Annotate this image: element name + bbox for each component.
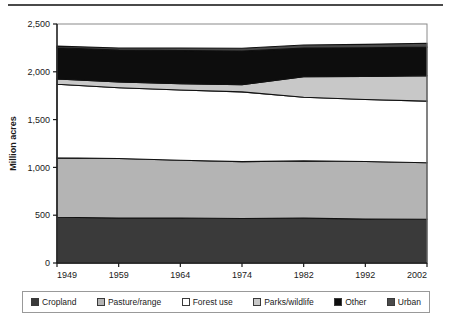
legend-item-pasture-range[interactable]: Pasture/range xyxy=(97,298,161,307)
x-tick-label: 2002 xyxy=(407,270,427,280)
legend-swatch-icon xyxy=(31,298,39,306)
x-axis-title: Year xyxy=(232,283,252,285)
header-divider xyxy=(8,4,443,6)
legend-item-label: Pasture/range xyxy=(108,298,161,307)
legend-item-other[interactable]: Other xyxy=(334,298,366,307)
plot-canvas: 05001,0001,5002,0002,500 194919591964197… xyxy=(0,10,451,285)
legend-swatch-icon xyxy=(253,298,261,306)
legend-item-label: Parks/wildlife xyxy=(264,298,314,307)
legend-item-forest-use[interactable]: Forest use xyxy=(182,298,233,307)
y-axis-title: Million acres xyxy=(8,116,18,171)
chart-legend: CroplandPasture/rangeForest useParks/wil… xyxy=(22,291,430,313)
area-band-cropland xyxy=(57,217,427,263)
legend-item-parks-wildlife[interactable]: Parks/wildlife xyxy=(253,298,314,307)
y-tick-label: 2,500 xyxy=(27,19,50,29)
area-band-pasture-range xyxy=(57,158,427,219)
y-tick-label: 0 xyxy=(45,258,50,268)
x-axis-tick-labels: 1949195919641974198219922002 xyxy=(57,270,427,280)
legend-item-cropland[interactable]: Cropland xyxy=(31,298,77,307)
x-tick-label: 1974 xyxy=(232,270,252,280)
legend-swatch-icon xyxy=(97,298,105,306)
x-tick-label: 1982 xyxy=(294,270,314,280)
legend-swatch-icon xyxy=(387,298,395,306)
y-tick-label: 2,000 xyxy=(27,67,50,77)
y-axis-tick-labels: 05001,0001,5002,0002,500 xyxy=(27,19,50,268)
chart-figure: 05001,0001,5002,0002,500 194919591964197… xyxy=(0,0,451,332)
legend-item-label: Forest use xyxy=(193,298,233,307)
y-tick-label: 1,000 xyxy=(27,163,50,173)
legend-swatch-icon xyxy=(182,298,190,306)
x-tick-label: 1949 xyxy=(57,270,77,280)
stacked-area-chart: 05001,0001,5002,0002,500 194919591964197… xyxy=(0,10,451,285)
y-tick-label: 1,500 xyxy=(27,115,50,125)
y-tick-label: 500 xyxy=(35,210,50,220)
x-tick-label: 1964 xyxy=(170,270,190,280)
legend-swatch-icon xyxy=(334,298,342,306)
area-series-group xyxy=(57,43,427,263)
legend-item-label: Other xyxy=(345,298,366,307)
legend-item-label: Urban xyxy=(398,298,421,307)
legend-item-urban[interactable]: Urban xyxy=(387,298,421,307)
x-tick-label: 1959 xyxy=(109,270,129,280)
x-tick-label: 1992 xyxy=(355,270,375,280)
legend-item-label: Cropland xyxy=(42,298,77,307)
